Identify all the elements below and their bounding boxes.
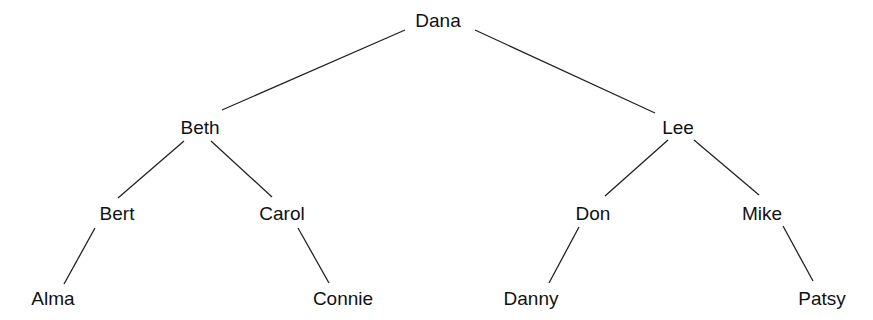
edge-mike-patsy: [783, 226, 813, 281]
node-bert: Bert: [100, 204, 135, 223]
edge-beth-carol: [211, 141, 272, 197]
node-beth: Beth: [180, 118, 219, 137]
edge-lee-don: [605, 140, 668, 196]
edge-lee-mike: [694, 140, 759, 195]
node-don: Don: [576, 204, 611, 223]
edge-dana-lee: [475, 30, 655, 113]
node-lee: Lee: [662, 118, 694, 137]
edge-bert-alma: [64, 228, 95, 284]
edge-don-danny: [549, 227, 579, 283]
node-alma: Alma: [31, 289, 74, 308]
node-danny: Danny: [504, 289, 559, 308]
edge-carol-connie: [298, 228, 329, 283]
node-mike: Mike: [742, 204, 782, 223]
node-patsy: Patsy: [798, 289, 846, 308]
node-dana: Dana: [415, 11, 460, 30]
edge-dana-beth: [222, 30, 405, 110]
node-carol: Carol: [259, 204, 304, 223]
tree-edges: [0, 0, 873, 320]
edge-beth-bert: [118, 141, 184, 198]
node-connie: Connie: [313, 289, 373, 308]
